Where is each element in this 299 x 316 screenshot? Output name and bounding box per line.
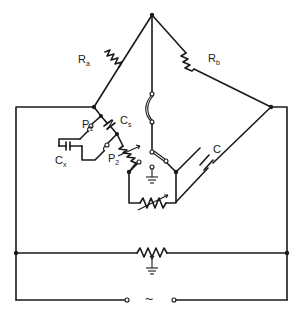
label-rb: Rb — [208, 52, 220, 66]
bridge-arm-c — [176, 107, 271, 202]
circuit-diagram: Ra Rb C — [0, 0, 299, 316]
ground-icon — [146, 268, 158, 274]
label-p1: P1 — [82, 118, 93, 132]
label-ra: Ra — [78, 53, 90, 67]
variable-resistor-bottom — [129, 172, 176, 210]
label-cs: Cs — [120, 114, 132, 128]
label-p2: P2 — [108, 152, 119, 166]
bridge-arm-ra — [94, 15, 152, 107]
label-c: C — [213, 143, 221, 155]
variable-resistor-arm — [117, 134, 141, 174]
detector-switch — [146, 15, 176, 172]
ground-icon — [146, 165, 158, 183]
wagner-earth-potentiometer — [14, 248, 289, 268]
ac-source-symbol: ~ — [145, 291, 153, 307]
label-cx: Cx — [55, 154, 67, 168]
